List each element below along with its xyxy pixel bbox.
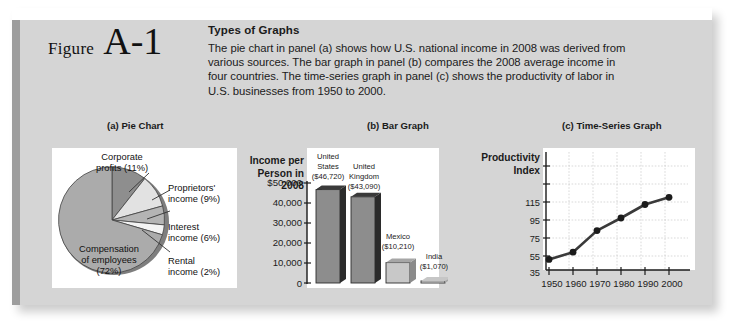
time-series-y-tick-labels: 115 95 75 55 35 [525, 198, 540, 278]
time-series-ytick-75: 75 [530, 234, 540, 244]
bar-india [421, 277, 448, 283]
bar-graph-y-tick-labels: $50,000 40,000 30,000 20,000 10,000 0 [267, 177, 302, 289]
time-series-xtick-1980: 1980 [613, 278, 634, 289]
time-series-xtick-1970: 1970 [589, 278, 610, 289]
bar-label-us-line2: States [317, 162, 339, 171]
bar-label-mexico-line1: Mexico [386, 232, 410, 241]
bar-graph-ytick-0: $50,000 [267, 177, 302, 188]
bar-label-us-value: ($46,720) [312, 172, 345, 181]
bar-graph: $50,000 40,000 30,000 20,000 10,000 0 [248, 148, 448, 300]
description-body: The pie chart in panel (a) shows how U.S… [208, 41, 628, 98]
bar-graph-y-axis: $50,000 40,000 30,000 20,000 10,000 0 [267, 177, 311, 289]
time-series-point-1950 [546, 256, 553, 263]
pie-label-interest-line2: income (6%) [168, 233, 220, 244]
pie-label-proprietors-line1: Proprietors' [168, 183, 220, 194]
bar-united-kingdom [351, 193, 381, 283]
pie-label-interest-income: Interest income (6%) [168, 222, 220, 244]
description-block: Types of Graphs The pie chart in panel (… [208, 24, 628, 98]
bar-united-states [316, 186, 346, 283]
time-series-point-1980 [618, 215, 625, 222]
panel-caption-time-series-graph: (c) Time-Series Graph [562, 120, 662, 131]
pie-label-rental-income: Rental income (2%) [168, 256, 220, 278]
figure-label: Figure A-1 [48, 22, 162, 60]
time-series-point-1970 [594, 227, 601, 234]
figure-label-word: Figure [48, 39, 94, 59]
pie-label-proprietors-line2: income (9%) [168, 194, 220, 205]
bar-label-india-line1: India [426, 252, 443, 261]
pie-label-compensation-line3: (72%) [60, 266, 158, 277]
bar-graph-ytick-1: 40,000 [273, 197, 302, 208]
bar-label-uk-value: ($43,090) [348, 182, 381, 191]
time-series-point-1990 [642, 201, 649, 208]
pie-label-corporate-profits: Corporate profits (11%) [96, 152, 148, 174]
pie-label-rental-line1: Rental [168, 256, 220, 267]
pie-label-interest-line1: Interest [168, 222, 220, 233]
panel-caption-pie-chart: (a) Pie Chart [107, 120, 164, 131]
pie-label-rental-line2: income (2%) [168, 267, 220, 278]
bar-label-india-value: ($1,070) [420, 262, 448, 271]
time-series-point-2000 [666, 194, 673, 201]
figure-label-number: A-1 [103, 22, 162, 60]
frame-left-accent-bar [12, 20, 20, 305]
pie-label-compensation-line1: Compensation [60, 244, 158, 255]
time-series-xtick-1950: 1950 [541, 278, 562, 289]
bar-graph-ytick-5: 0 [297, 278, 302, 289]
time-series-xtick-1960: 1960 [565, 278, 586, 289]
pie-label-proprietors-income: Proprietors' income (9%) [168, 183, 220, 205]
time-series-ytick-35: 35 [530, 268, 540, 278]
description-title: Types of Graphs [208, 24, 628, 36]
bar-label-us-line1: United [317, 152, 339, 161]
pie-label-corporate-line2: profits (11%) [96, 163, 148, 174]
pie-label-corporate-line1: Corporate [96, 152, 148, 163]
bar-graph-ytick-3: 20,000 [273, 237, 302, 248]
bar-mexico [386, 259, 416, 283]
time-series-xtick-1990: 1990 [637, 278, 658, 289]
pie-label-compensation-of-employees: Compensation of employees (72%) [60, 244, 158, 277]
time-series-ytick-95: 95 [530, 216, 540, 226]
pie-label-compensation-line2: of employees [60, 255, 158, 266]
panel-caption-bar-graph: (b) Bar Graph [367, 120, 429, 131]
frame-top-edge [12, 8, 712, 20]
bar-label-uk-line2: Kingdom [349, 172, 379, 181]
bar-graph-ytick-2: 30,000 [273, 217, 302, 228]
time-series-graph: 115 95 75 55 35 1950 1960 1970 1980 1990… [492, 148, 702, 310]
time-series-ytick-115: 115 [525, 198, 540, 208]
bar-label-mexico-value: ($10,210) [382, 242, 415, 251]
time-series-x-tick-labels: 1950 1960 1970 1980 1990 2000 [541, 278, 682, 289]
time-series-point-1960 [570, 249, 577, 256]
time-series-xtick-2000: 2000 [661, 278, 682, 289]
bar-label-uk-line1: United [353, 162, 375, 171]
time-series-ytick-55: 55 [530, 252, 540, 262]
bar-graph-ytick-4: 10,000 [273, 257, 302, 268]
